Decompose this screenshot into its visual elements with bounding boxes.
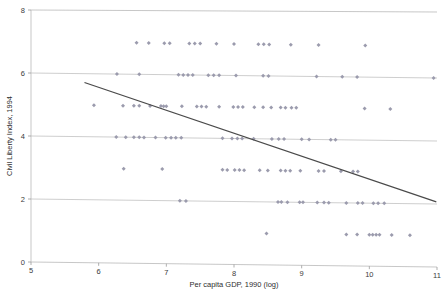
y-axis-title: Civil Liberty Index, 1994 [5,96,14,176]
data-point [256,42,260,46]
data-point [315,75,319,79]
x-tick-label-7: 7 [164,268,168,277]
gridline-y-4 [31,136,437,141]
plot-top-border [31,10,437,12]
data-point [322,201,326,205]
y-tick-label-4: 4 [21,132,25,141]
data-point [371,201,375,205]
y-tick-label-0: 0 [21,258,25,267]
data-point [147,41,151,45]
data-point [317,169,321,173]
data-point [317,43,321,47]
data-point [212,73,216,77]
x-tick-label-10: 10 [365,270,373,279]
data-point [220,136,224,140]
data-point [363,107,367,111]
data-point [334,138,338,142]
y-tick-label-8: 8 [21,6,25,15]
data-point [92,103,96,107]
scatter-plot-figure: 02468 567891011 Per capita GDP, 1990 (lo… [0,0,445,298]
data-point [164,136,168,140]
x-axis-title: Per capita GDP, 1990 (log) [189,280,279,289]
data-point [217,105,221,109]
data-point [187,41,191,45]
data-point [327,201,331,205]
y-axis-ticks-group: 02468 [21,6,31,267]
x-tick-label-9: 9 [300,269,304,278]
data-point [315,201,319,205]
data-point [322,169,326,173]
data-point [115,72,119,76]
data-point [258,168,262,172]
data-point [132,104,136,108]
data-point [168,41,172,45]
data-point [377,233,381,237]
y-tick-label-6: 6 [21,69,25,78]
data-point [174,136,178,140]
data-point [142,135,146,139]
data-point [162,41,166,45]
data-point [186,73,190,77]
data-point [288,169,292,173]
data-point [267,42,271,46]
data-point [344,201,348,205]
data-point [270,137,274,141]
data-point [230,136,234,140]
data-point [124,135,128,139]
y-tick-label-2: 2 [21,195,25,204]
data-point [169,136,173,140]
data-point [344,232,348,236]
data-point [267,74,271,78]
data-point [204,105,208,109]
data-point [154,136,158,140]
data-point [371,233,375,237]
data-point [214,42,218,46]
data-point [137,104,141,108]
data-point [252,105,256,109]
data-point [390,233,394,237]
data-point [382,201,386,205]
data-point [137,135,141,139]
data-point [282,137,286,141]
gridline-y-2 [31,199,437,204]
regression-trendline [84,82,436,201]
data-point [376,201,380,205]
data-point [266,168,270,172]
data-point [283,106,287,110]
data-point [232,42,236,46]
data-point [137,72,141,76]
data-point [285,200,289,204]
data-point [279,106,283,110]
data-point [240,137,244,141]
data-point [217,73,221,77]
data-point [269,105,273,109]
data-point [233,168,237,172]
data-point [234,74,238,78]
data-point [329,138,333,142]
data-point [356,201,360,205]
data-point [122,167,126,171]
data-point [160,167,164,171]
data-point [114,135,118,139]
x-tick-label-8: 8 [232,269,236,278]
data-point [198,42,202,46]
data-point [264,231,268,235]
data-point [279,200,283,204]
data-point [290,106,294,110]
data-point [179,136,183,140]
x-tick-label-11: 11 [433,271,441,280]
data-point [178,199,182,203]
data-point [261,74,265,78]
data-point [367,233,371,237]
data-point [361,201,365,205]
gridlines-group [31,73,437,204]
data-point [289,43,293,47]
data-point [206,73,210,77]
data-point [355,75,359,79]
data-point [374,233,378,237]
data-point [242,168,246,172]
data-point [236,105,240,109]
data-point [300,137,304,141]
data-point [279,169,283,173]
data-point [355,233,359,237]
